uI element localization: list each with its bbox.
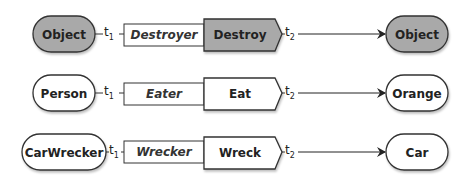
t2-label: t2 (285, 25, 295, 42)
action-label: Wreck (219, 146, 262, 160)
object-label: Car (406, 146, 429, 160)
subject-label: CarWrecker (25, 146, 104, 160)
role-label: Destroyer (130, 28, 198, 42)
subject-label: Object (42, 28, 86, 42)
t1-label: t1 (104, 84, 114, 101)
role-label: Wrecker (136, 145, 192, 159)
action-label: Destroy (214, 28, 267, 42)
subject-label: Person (41, 87, 88, 101)
object-label: Object (395, 28, 439, 42)
row-3: CarWrecker t1 Wrecker Wreck t2 Car (22, 134, 448, 170)
t2-label: t2 (285, 143, 295, 160)
t1-label: t1 (109, 143, 119, 160)
relation-diagram: Object t1 Destroyer Destroy t2 Object Pe… (0, 0, 476, 187)
row-1: Object t1 Destroyer Destroy t2 Object (33, 16, 448, 52)
object-label: Orange (392, 87, 442, 101)
role-label: Eater (146, 87, 183, 101)
t1-label: t1 (104, 25, 114, 42)
row-2: Person t1 Eater Eat t2 Orange (33, 75, 448, 111)
t2-label: t2 (285, 84, 295, 101)
action-label: Eat (229, 87, 251, 101)
